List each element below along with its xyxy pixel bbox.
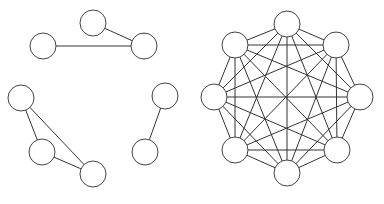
sparse-graph [8, 10, 178, 187]
node-ul [222, 32, 248, 58]
node-b [30, 33, 56, 59]
node-r [347, 84, 373, 110]
node-ll [222, 137, 248, 163]
node-h [80, 161, 106, 187]
node-lr [324, 137, 350, 163]
edge-r-b [287, 97, 360, 173]
node-t [274, 11, 300, 37]
node-f [29, 139, 55, 165]
node-ur [323, 32, 349, 58]
node-g [132, 139, 158, 165]
edge-l-b [214, 97, 287, 173]
graph-diagram [0, 0, 384, 204]
node-e [152, 83, 178, 109]
node-b [274, 160, 300, 186]
edge-t-r [287, 24, 360, 97]
node-c [131, 33, 157, 59]
node-a [80, 10, 106, 36]
node-d [8, 85, 34, 111]
node-l [201, 84, 227, 110]
edge-d-h [21, 98, 93, 174]
complete-graph-k8 [201, 11, 373, 186]
